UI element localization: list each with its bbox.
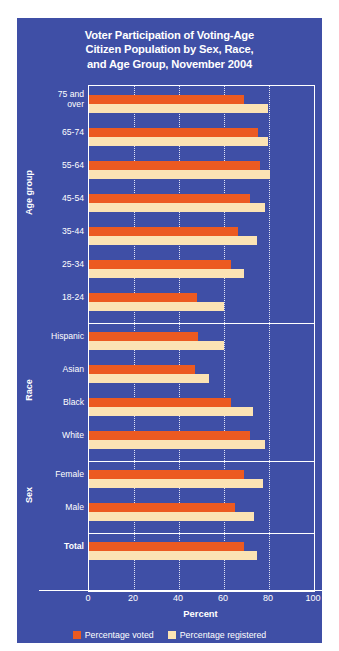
plot-inner: [89, 86, 314, 591]
category-label: 18-24: [18, 292, 84, 302]
category-label: 25-34: [18, 259, 84, 269]
bar-voted: [89, 227, 238, 236]
bar-registered: [89, 203, 265, 212]
legend-label: Percentage voted: [85, 630, 154, 640]
bar-voted: [89, 398, 231, 407]
x-tick-label: 60: [218, 593, 228, 603]
bar-voted: [89, 95, 244, 104]
bar-voted: [89, 542, 244, 551]
category-label: 55-64: [18, 160, 84, 170]
bar-voted: [89, 503, 235, 512]
bar-voted: [89, 470, 244, 479]
x-axis-line: [39, 590, 322, 591]
legend-swatch-icon: [73, 631, 81, 639]
category-label: 35-44: [18, 226, 84, 236]
bar-registered: [89, 512, 254, 521]
bar-registered: [89, 551, 257, 560]
x-tick-label: 80: [263, 593, 273, 603]
category-label: White: [18, 430, 84, 440]
section-separator: [89, 461, 314, 462]
bar-voted: [89, 161, 260, 170]
category-label: Hispanic: [18, 331, 84, 341]
bar-registered: [89, 236, 257, 245]
chart-title: Voter Participation of Voting-Age Citize…: [31, 28, 308, 71]
category-label: Female: [18, 469, 84, 479]
chart-title-line-2: Citizen Population by Sex, Race,: [31, 42, 308, 56]
section-separator: [89, 533, 314, 534]
category-label: Total: [18, 541, 84, 551]
bar-voted: [89, 293, 197, 302]
legend-label: Percentage registered: [180, 630, 267, 640]
bar-registered: [89, 104, 268, 113]
bar-registered: [89, 137, 268, 146]
bar-voted: [89, 431, 250, 440]
bar-voted: [89, 260, 231, 269]
chart-title-line-1: Voter Participation of Voting-Age: [31, 28, 308, 42]
axis-group-title: Sex: [24, 483, 34, 507]
category-label: Asian: [18, 364, 84, 374]
bar-voted: [89, 365, 195, 374]
bar-registered: [89, 374, 209, 383]
chart-figure: Voter Participation of Voting-Age Citize…: [17, 18, 322, 643]
plot-area: [88, 85, 315, 592]
chart-title-line-3: and Age Group, November 2004: [31, 57, 308, 71]
bar-registered: [89, 479, 263, 488]
bar-voted: [89, 194, 250, 203]
legend-item: Percentage registered: [168, 630, 267, 640]
chart-legend: Percentage votedPercentage registered: [17, 630, 322, 640]
bar-registered: [89, 269, 244, 278]
axis-group-title: Age group: [24, 191, 34, 215]
axis-group-title: Race: [24, 378, 34, 402]
bar-registered: [89, 170, 270, 179]
section-separator: [89, 323, 314, 324]
bar-registered: [89, 302, 224, 311]
x-tick-label: 100: [305, 593, 320, 603]
bar-registered: [89, 341, 224, 350]
bar-registered: [89, 407, 253, 416]
bar-registered: [89, 440, 265, 449]
x-tick-label: 40: [173, 593, 183, 603]
x-tick-label: 0: [85, 593, 90, 603]
legend-swatch-icon: [168, 631, 176, 639]
category-label: 65-74: [18, 127, 84, 137]
bar-voted: [89, 332, 198, 341]
category-label: 75 and over: [18, 89, 84, 109]
x-axis-label: Percent: [88, 608, 313, 619]
bar-voted: [89, 128, 258, 137]
x-tick-label: 20: [128, 593, 138, 603]
gridline-80: [269, 86, 270, 591]
legend-item: Percentage voted: [73, 630, 154, 640]
